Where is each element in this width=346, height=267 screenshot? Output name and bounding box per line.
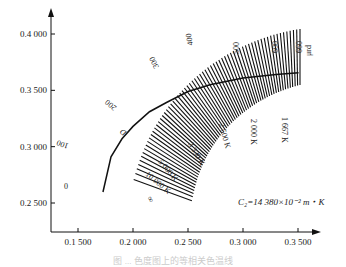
temp-label-infinity: ∞ — [145, 195, 156, 205]
band-line — [280, 33, 285, 89]
temp-label-2500k: 2 500 K — [217, 122, 232, 149]
band-label-400: 400 — [184, 33, 195, 46]
x-tick-label: 0.3 000 — [230, 237, 258, 247]
y-axis-arrow — [48, 8, 54, 17]
band-line — [227, 55, 248, 109]
locus-label-d: D — [118, 127, 129, 138]
band-line — [290, 31, 293, 87]
band-label-300: 300 — [148, 55, 161, 70]
band-unit-label: μrd — [304, 45, 313, 56]
temp-label-2000k: 2 000 K — [249, 119, 258, 145]
y-tick-label: 0.2 500 — [20, 198, 48, 208]
band-label-500: 500 — [232, 42, 241, 54]
x-tick-label: 0.2 000 — [120, 237, 148, 247]
band-label-200: 200 — [103, 98, 118, 113]
x-axis-arrow — [312, 229, 321, 235]
x-tick-label: 0.2 500 — [175, 237, 203, 247]
band-line — [297, 30, 298, 86]
band-line — [293, 30, 295, 86]
band-label-660: 660 — [295, 41, 304, 53]
line-band — [134, 29, 300, 201]
band-label-600: 600 — [271, 41, 280, 53]
x-tick-label: 0.1 500 — [65, 237, 93, 247]
band-label-100: 100 — [55, 138, 69, 151]
x-tick-label: 0.3 500 — [285, 237, 313, 247]
y-tick-label: 0.4 000 — [20, 29, 48, 39]
formula-annotation: C₂=14 380×10⁻² m・K — [238, 197, 325, 207]
temp-label-1667k: 1 667 K — [280, 117, 289, 143]
y-tick-label: 0.3 000 — [20, 142, 48, 152]
band-line — [255, 41, 268, 97]
figure-caption: 图 ... 色度图上的等相关色温线 — [0, 254, 346, 267]
y-tick-label: 0.3 500 — [20, 85, 48, 95]
band-label-0: 0 — [64, 182, 68, 191]
